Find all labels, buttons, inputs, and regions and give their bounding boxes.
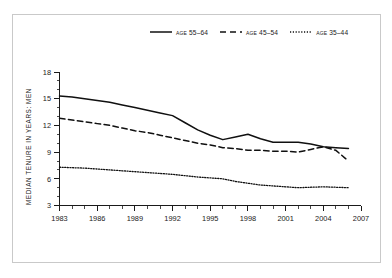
y-axis-ticks: 369121518 [43, 68, 60, 211]
data-series-group [60, 96, 349, 188]
y-axis-title: MEDIAN TENURE IN YEARS: MEN [25, 88, 32, 205]
x-tick-label: 1983 [51, 214, 67, 223]
figure-root: age 55–64 age 45–54 age 35–44 MEDIAN TEN… [0, 0, 392, 278]
x-tick-label: 2004 [315, 214, 331, 223]
series-line-age-45-54 [60, 118, 349, 161]
y-tick-label: 12 [43, 121, 51, 130]
y-tick-label: 9 [47, 148, 51, 157]
x-tick-label: 1989 [127, 214, 143, 223]
y-tick-label: 18 [43, 68, 51, 77]
series-line-age-55-64 [60, 96, 349, 149]
x-tick-label: 2001 [277, 214, 293, 223]
x-tick-label: 1992 [164, 214, 180, 223]
y-tick-label: 3 [47, 201, 51, 210]
x-tick-label: 1995 [202, 214, 218, 223]
line-chart-plot: MEDIAN TENURE IN YEARS: MEN 369121518 19… [0, 0, 392, 278]
x-axis-ticks: 198319861989199219951998200120042007 [51, 206, 369, 224]
x-tick-label: 2007 [353, 214, 369, 223]
y-tick-label: 6 [47, 175, 51, 184]
y-tick-label: 15 [43, 94, 51, 103]
series-line-age-35-44 [60, 167, 349, 187]
x-tick-label: 1986 [89, 214, 105, 223]
x-tick-label: 1998 [240, 214, 256, 223]
